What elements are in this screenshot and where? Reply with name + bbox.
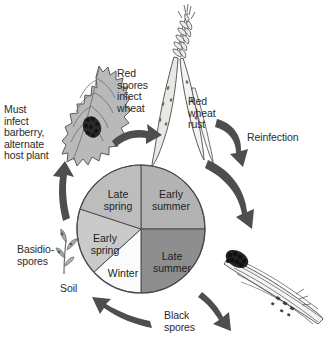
label-red-spores-infect-wheat: Red spores infect wheat (117, 68, 148, 114)
label-reinfection: Reinfection (247, 132, 298, 144)
label-black-spores: Black spores (164, 310, 195, 333)
label-must-infect-barberry: Must infect barberry, alternate host pla… (4, 104, 49, 162)
pie-label-early-summer: Early summer (146, 189, 196, 212)
label-soil: Soil (60, 283, 77, 295)
diagram-artwork (0, 0, 330, 343)
pie-label-late-spring: Late spring (95, 189, 141, 212)
label-basidiospores: Basidio- spores (17, 244, 54, 267)
label-red-wheat-rust: Red wheat rust (188, 96, 216, 131)
pie-label-winter: Winter (101, 268, 145, 280)
pie-label-late-summer: Late summer (148, 251, 196, 274)
wheat-rust-life-cycle-figure: Must infect barberry, alternate host pla… (0, 0, 330, 343)
pie-label-early-spring: Early spring (83, 233, 127, 256)
